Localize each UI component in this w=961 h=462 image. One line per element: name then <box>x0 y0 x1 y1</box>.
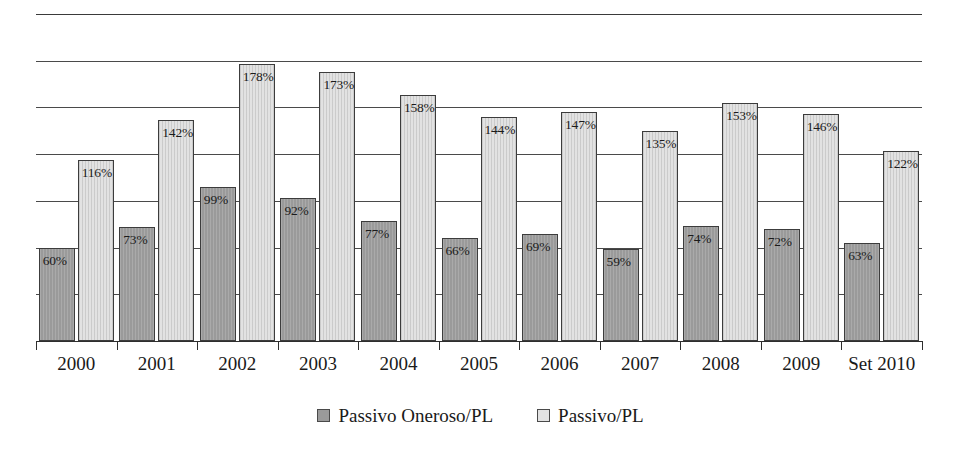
x-tick-2008 <box>680 341 681 350</box>
category-label-2007: 2007 <box>600 354 681 373</box>
legend-label: Passivo/PL <box>558 406 644 425</box>
bar-passivo-pl-2005: 144% <box>481 117 517 341</box>
bar-passivo-oneroso-pl-2007: 59% <box>603 249 639 341</box>
x-tick-2004 <box>358 341 359 350</box>
bar-passivo-pl-2007: 135% <box>642 131 678 341</box>
category-label-2003: 2003 <box>278 354 359 373</box>
bar-value-label: 116% <box>82 166 112 180</box>
bar-passivo-pl-2000: 116% <box>78 160 114 341</box>
category-label-2006: 2006 <box>519 354 600 373</box>
bar-passivo-oneroso-pl-2005: 66% <box>442 238 478 341</box>
chart-legend: Passivo Oneroso/PLPassivo/PL <box>0 406 961 425</box>
bar-value-label: 153% <box>726 109 757 123</box>
category-label-2005: 2005 <box>439 354 520 373</box>
bar-passivo-oneroso-pl-2009: 72% <box>764 229 800 341</box>
bar-value-label: 146% <box>807 120 838 134</box>
legend-item-passivo-oneroso-pl[interactable]: Passivo Oneroso/PL <box>317 406 493 425</box>
bar-passivo-oneroso-pl-2003: 92% <box>280 198 316 341</box>
x-tick-2007 <box>600 341 601 350</box>
x-tick-Set-2010 <box>841 341 842 350</box>
x-tick-2000 <box>36 341 37 350</box>
legend-swatch-icon <box>537 409 550 422</box>
bar-passivo-pl-2009: 146% <box>803 114 839 341</box>
bar-value-label: 60% <box>43 254 67 268</box>
bar-passivo-oneroso-pl-Set-2010: 63% <box>844 243 880 341</box>
gridline-150 <box>36 107 922 108</box>
bar-value-label: 77% <box>365 227 389 241</box>
bar-value-label: 73% <box>123 233 147 247</box>
category-label-2004: 2004 <box>358 354 439 373</box>
x-tick-2005 <box>439 341 440 350</box>
bar-passivo-oneroso-pl-2008: 74% <box>683 226 719 341</box>
bar-value-label: 178% <box>243 70 274 84</box>
bar-passivo-pl-2006: 147% <box>561 112 597 341</box>
bar-value-label: 63% <box>848 249 872 263</box>
category-label-2009: 2009 <box>761 354 842 373</box>
legend-label: Passivo Oneroso/PL <box>338 406 493 425</box>
bar-passivo-oneroso-pl-2002: 99% <box>200 187 236 341</box>
bar-passivo-oneroso-pl-2006: 69% <box>522 234 558 341</box>
bar-value-label: 74% <box>687 232 711 246</box>
bar-value-label: 147% <box>565 118 596 132</box>
bar-value-label: 72% <box>768 235 792 249</box>
bar-value-label: 122% <box>887 157 918 171</box>
bar-value-label: 59% <box>607 255 631 269</box>
gridline-210 <box>36 14 922 15</box>
bar-passivo-oneroso-pl-2004: 77% <box>361 221 397 341</box>
bar-passivo-pl-2002: 178% <box>239 64 275 341</box>
bar-value-label: 173% <box>323 78 354 92</box>
bar-passivo-oneroso-pl-2001: 73% <box>119 227 155 341</box>
category-label-2000: 2000 <box>36 354 117 373</box>
bar-value-label: 135% <box>646 137 677 151</box>
category-label-2002: 2002 <box>197 354 278 373</box>
x-tick-2009 <box>761 341 762 350</box>
bar-passivo-oneroso-pl-2000: 60% <box>39 248 75 341</box>
legend-item-passivo-pl[interactable]: Passivo/PL <box>537 406 644 425</box>
bar-value-label: 142% <box>162 126 193 140</box>
x-tick-end <box>922 341 923 350</box>
x-axis-line <box>36 341 922 342</box>
bar-chart: 60%116%73%142%99%178%92%173%77%158%66%14… <box>0 0 961 462</box>
category-label-2008: 2008 <box>680 354 761 373</box>
bar-value-label: 144% <box>485 123 516 137</box>
bar-passivo-pl-Set-2010: 122% <box>883 151 919 341</box>
x-tick-2006 <box>519 341 520 350</box>
bar-passivo-pl-2001: 142% <box>158 120 194 341</box>
x-tick-2003 <box>278 341 279 350</box>
bar-value-label: 69% <box>526 240 550 254</box>
legend-swatch-icon <box>317 409 330 422</box>
category-label-2001: 2001 <box>117 354 198 373</box>
bar-passivo-pl-2008: 153% <box>722 103 758 341</box>
bar-value-label: 66% <box>446 244 470 258</box>
x-tick-2001 <box>117 341 118 350</box>
bar-passivo-pl-2004: 158% <box>400 95 436 341</box>
bar-passivo-pl-2003: 173% <box>319 72 355 341</box>
bar-value-label: 158% <box>404 101 435 115</box>
gridline-180 <box>36 61 922 62</box>
bar-value-label: 99% <box>204 193 228 207</box>
x-tick-2002 <box>197 341 198 350</box>
category-label-Set-2010: Set 2010 <box>841 354 922 373</box>
bar-value-label: 92% <box>284 204 308 218</box>
